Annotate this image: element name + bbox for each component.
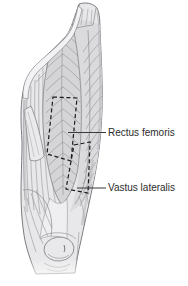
bottom-fade (10, 258, 120, 284)
label-vastus-lateralis: Vastus lateralis (108, 182, 175, 193)
thigh-illustration (0, 0, 188, 286)
label-rectus-femoris: Rectus femoris (108, 127, 175, 138)
anatomy-figure: Rectus femoris Vastus lateralis (0, 0, 188, 286)
